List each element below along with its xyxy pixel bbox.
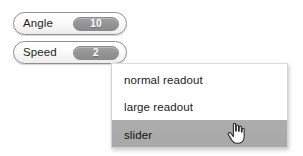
field-speed-value: 2 bbox=[93, 48, 99, 58]
menu-item-large-readout[interactable]: large readout bbox=[112, 93, 287, 120]
menu-item-normal-readout-label: normal readout bbox=[124, 74, 203, 86]
field-speed-value-badge[interactable]: 2 bbox=[73, 46, 119, 60]
menu-item-normal-readout[interactable]: normal readout bbox=[112, 64, 287, 93]
field-angle-label: Angle bbox=[23, 18, 53, 30]
field-angle-value-badge[interactable]: 10 bbox=[73, 17, 119, 31]
field-speed[interactable]: Speed 2 bbox=[13, 41, 127, 64]
menu-item-large-readout-label: large readout bbox=[124, 101, 193, 113]
field-angle-value: 10 bbox=[90, 19, 102, 29]
menu-item-slider[interactable]: slider bbox=[112, 120, 287, 148]
menu-item-slider-label: slider bbox=[124, 129, 152, 141]
field-speed-label: Speed bbox=[23, 47, 57, 59]
dropdown-menu: normal readout large readout slider bbox=[111, 63, 288, 148]
field-angle[interactable]: Angle 10 bbox=[13, 12, 127, 35]
